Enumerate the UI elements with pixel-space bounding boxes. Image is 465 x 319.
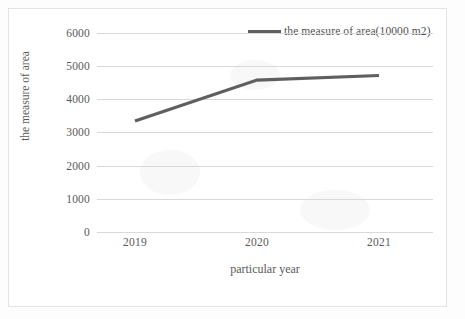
series-line-chart bbox=[97, 33, 433, 232]
x-tick-label-2020: 2020 bbox=[217, 236, 297, 249]
x-axis-tick-labels: 2019 2020 2021 bbox=[97, 236, 433, 254]
y-tick-label: 4000 bbox=[44, 94, 90, 106]
plot-area bbox=[97, 33, 433, 232]
y-axis-tick-labels: 6000 5000 4000 3000 2000 1000 0 bbox=[40, 33, 90, 232]
y-tick-label: 2000 bbox=[44, 161, 90, 173]
y-tick-label: 6000 bbox=[44, 28, 90, 40]
y-tick-label: 1000 bbox=[44, 194, 90, 206]
y-tick-label: 3000 bbox=[44, 127, 90, 139]
x-tick-label-2019: 2019 bbox=[95, 236, 175, 249]
y-tick-label: 5000 bbox=[44, 61, 90, 73]
x-tick-label-2021: 2021 bbox=[339, 236, 419, 249]
y-tick-label: 0 bbox=[44, 227, 90, 239]
gridline-0 bbox=[97, 232, 433, 233]
series-line-the-measure-of-area bbox=[135, 76, 379, 121]
x-axis-title: particular year bbox=[97, 262, 433, 277]
y-axis-title: the measure of area bbox=[19, 26, 31, 166]
chart-figure: the measure of area(10000 m2) the measur… bbox=[0, 0, 465, 319]
